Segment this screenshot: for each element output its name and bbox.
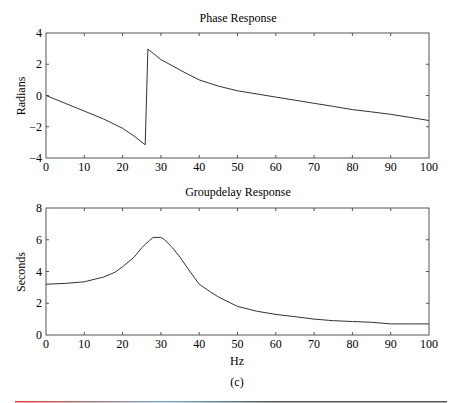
x-tick-label: 90 — [385, 337, 397, 351]
figure: Phase Response Radians 01020304050607080… — [0, 0, 454, 403]
x-tick-label: 40 — [193, 337, 205, 351]
axes-frame — [46, 33, 429, 158]
plot-title: Phase Response — [200, 11, 277, 25]
x-tick-label: 0 — [43, 337, 49, 351]
x-tick-label: 80 — [346, 337, 358, 351]
y-axis-label: Radians — [14, 76, 28, 115]
y-tick-label: −2 — [29, 120, 42, 134]
x-tick-label: 50 — [232, 337, 244, 351]
y-axis-label: Seconds — [14, 252, 28, 292]
groupdelay-curve — [46, 237, 429, 324]
x-tick-label: 70 — [308, 337, 320, 351]
y-tick-label: 2 — [36, 57, 42, 71]
y-tick-label: 4 — [36, 265, 42, 279]
x-tick-label: 100 — [420, 337, 438, 351]
y-tick-label: 6 — [36, 233, 42, 247]
axes-frame — [46, 208, 429, 335]
x-tick-label: 90 — [385, 160, 397, 174]
figure-caption: (c) — [230, 375, 243, 389]
bottom-rule — [15, 401, 447, 403]
x-axis-ticks: 0102030405060708090100 — [43, 33, 438, 174]
x-tick-label: 10 — [78, 160, 90, 174]
x-axis-label: Hz — [230, 354, 244, 368]
groupdelay-response-plot: Groupdelay Response Seconds 010203040506… — [14, 185, 438, 368]
y-tick-label: 0 — [36, 89, 42, 103]
y-tick-label: 4 — [36, 26, 42, 40]
x-tick-label: 0 — [43, 160, 49, 174]
x-tick-label: 50 — [232, 160, 244, 174]
x-tick-label: 70 — [308, 160, 320, 174]
x-axis-ticks: 0102030405060708090100 — [43, 208, 438, 351]
phase-curve — [46, 49, 429, 145]
x-tick-label: 100 — [420, 160, 438, 174]
x-tick-label: 60 — [270, 337, 282, 351]
x-tick-label: 30 — [155, 337, 167, 351]
y-tick-label: −4 — [29, 151, 42, 165]
y-axis-ticks: −4−2024 — [29, 26, 429, 165]
x-tick-label: 20 — [117, 337, 129, 351]
phase-response-plot: Phase Response Radians 01020304050607080… — [14, 11, 438, 174]
y-tick-label: 2 — [36, 296, 42, 310]
x-tick-label: 30 — [155, 160, 167, 174]
x-tick-label: 10 — [78, 337, 90, 351]
plot-title: Groupdelay Response — [185, 185, 291, 199]
x-tick-label: 60 — [270, 160, 282, 174]
y-axis-ticks: 02468 — [36, 201, 429, 342]
x-tick-label: 20 — [117, 160, 129, 174]
x-tick-label: 40 — [193, 160, 205, 174]
y-tick-label: 8 — [36, 201, 42, 215]
y-tick-label: 0 — [36, 328, 42, 342]
x-tick-label: 80 — [346, 160, 358, 174]
